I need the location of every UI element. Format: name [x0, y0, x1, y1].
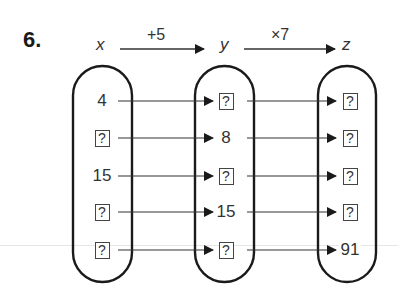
z-unknown-row-1[interactable]: ? [330, 90, 370, 112]
x-value-row-1: 4 [91, 90, 113, 112]
unknown-box[interactable]: ? [343, 168, 358, 185]
unknown-box[interactable]: ? [95, 242, 110, 259]
x-value-row-3: 15 [90, 165, 114, 187]
unknown-box[interactable]: ? [95, 130, 110, 147]
unknown-box[interactable]: ? [343, 93, 358, 110]
unknown-box[interactable]: ? [219, 93, 234, 110]
z-value-row-5: 91 [339, 239, 361, 261]
x-unknown-row-4[interactable]: ? [82, 201, 122, 223]
x-unknown-row-2[interactable]: ? [82, 127, 122, 149]
z-unknown-row-4[interactable]: ? [330, 201, 370, 223]
y-unknown-row-3[interactable]: ? [206, 165, 246, 187]
y-value-row-2: 8 [215, 127, 237, 149]
unknown-box[interactable]: ? [219, 168, 234, 185]
unknown-box[interactable]: ? [219, 242, 234, 259]
unknown-box[interactable]: ? [343, 130, 358, 147]
z-unknown-row-3[interactable]: ? [330, 165, 370, 187]
y-value-row-4: 15 [215, 201, 237, 223]
unknown-box[interactable]: ? [343, 204, 358, 221]
z-unknown-row-2[interactable]: ? [330, 127, 370, 149]
y-unknown-row-5[interactable]: ? [206, 239, 246, 261]
unknown-box[interactable]: ? [95, 204, 110, 221]
x-unknown-row-5[interactable]: ? [82, 239, 122, 261]
y-unknown-row-1[interactable]: ? [206, 90, 246, 112]
